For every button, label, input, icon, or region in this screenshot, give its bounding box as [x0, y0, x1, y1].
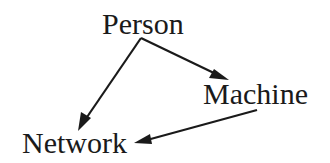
node-machine: Machine	[203, 77, 308, 110]
edge-machine-to-network	[134, 110, 257, 144]
edge-line	[141, 38, 216, 74]
node-person: Person	[102, 7, 184, 40]
edge-line	[147, 110, 257, 140]
edge-person-to-machine	[141, 38, 229, 80]
diagram-svg: Person Machine Network	[0, 0, 330, 163]
edge-line	[85, 38, 141, 120]
arrowhead-icon	[134, 134, 152, 144]
diagram-canvas: Person Machine Network	[0, 0, 330, 163]
edge-person-to-network	[78, 38, 141, 131]
node-network: Network	[22, 126, 127, 159]
